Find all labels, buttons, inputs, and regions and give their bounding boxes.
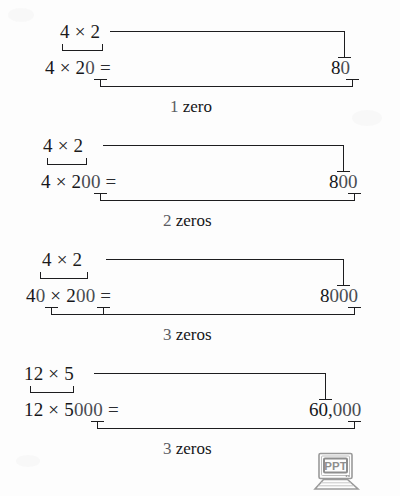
zeros-label-4: 3 zeros xyxy=(163,440,212,457)
zeros-word-4: zeros xyxy=(176,439,212,458)
fact-to-answer-drop-4 xyxy=(325,373,326,399)
basic-fact-3: 4 × 2 xyxy=(42,250,82,269)
problem-line-1: 4 × 20 = xyxy=(45,58,111,77)
answer-3: 8000 xyxy=(320,286,358,305)
answer-lead-4: 60, xyxy=(309,399,333,420)
fact-brace-right-tick-1 xyxy=(102,44,103,51)
ppt-watermark: PPT xyxy=(312,452,362,492)
worksheet-page: 4 × 2 4 × 20 = 80 1 zero 4 × 2 4 × 200 = xyxy=(0,0,400,496)
fact-brace-rule-4 xyxy=(30,392,74,393)
zeros-bracket-rule-2 xyxy=(100,200,354,201)
zeros-label-3: 3 zeros xyxy=(163,326,212,343)
zeros-bracket-right-tick-4 xyxy=(354,421,355,429)
zeros-bracket-tick-c-3 xyxy=(354,307,355,315)
answer-1: 80 xyxy=(331,58,350,77)
zeros-count-1: 1 xyxy=(170,97,179,116)
zeros-bracket-left-tick-4 xyxy=(97,421,98,429)
zeros-word-3: zeros xyxy=(176,325,212,344)
problem-lead-a-3: 4 xyxy=(26,285,36,306)
answer-lead-2: 8 xyxy=(329,171,339,192)
fact-brace-right-tick-3 xyxy=(87,272,88,279)
equals-glyph-4: = xyxy=(108,399,119,420)
fact-brace-right-tick-4 xyxy=(73,386,74,393)
zeros-bracket-tick-b-3 xyxy=(103,307,104,315)
zeros-label-2: 2 zeros xyxy=(163,212,212,229)
fact-to-answer-drop-3 xyxy=(343,259,344,285)
problem-lead-1: 4 × 2 xyxy=(45,57,85,78)
equals-glyph-3: = xyxy=(100,285,111,306)
zeros-word-2: zeros xyxy=(176,211,212,230)
fact-brace-rule-2 xyxy=(47,164,87,165)
equals-glyph-1: = xyxy=(100,57,111,78)
fact-to-answer-rule-4 xyxy=(94,373,325,374)
problem-line-2: 4 × 200 = xyxy=(41,172,117,191)
ppt-watermark-label: PPT xyxy=(324,460,346,472)
laptop-icon: PPT xyxy=(312,452,362,492)
problem-zeros-b-3: 00 xyxy=(76,285,95,306)
problem-times-3: × xyxy=(45,285,66,306)
zeros-bracket-cap-a-3 xyxy=(45,307,58,308)
answer-lead-3: 8 xyxy=(320,285,330,306)
zeros-bracket-right-cap-2 xyxy=(348,193,361,194)
zeros-bracket-left-cap-2 xyxy=(94,193,107,194)
zeros-count-4: 3 xyxy=(163,439,172,458)
example-block-2: 4 × 2 4 × 200 = 800 2 zeros xyxy=(0,120,400,240)
problem-zero-a-3: 0 xyxy=(36,285,46,306)
fact-brace-rule-3 xyxy=(40,278,88,279)
answer-zeros-3: 000 xyxy=(330,285,359,306)
problem-lead-2: 4 × 2 xyxy=(41,171,81,192)
problem-lead-4: 12 × 5 xyxy=(24,399,74,420)
fact-brace-left-tick-2 xyxy=(47,158,48,165)
answer-4: 60,000 xyxy=(309,400,361,419)
fact-to-answer-rule-3 xyxy=(106,259,343,260)
problem-line-3: 40 × 200 = xyxy=(26,286,111,305)
basic-fact-4: 12 × 5 xyxy=(24,364,74,383)
fact-to-answer-drop-1 xyxy=(344,31,345,57)
zeros-bracket-left-cap-1 xyxy=(94,79,107,80)
fact-brace-right-tick-2 xyxy=(86,158,87,165)
problem-zeros-1: 0 xyxy=(85,57,95,78)
answer-zeros-4: 000 xyxy=(333,399,362,420)
zeros-count-2: 2 xyxy=(163,211,172,230)
zeros-bracket-cap-c-3 xyxy=(348,307,361,308)
zeros-bracket-rule-1 xyxy=(100,86,352,87)
answer-lead-1: 8 xyxy=(331,57,341,78)
answer-2: 800 xyxy=(329,172,358,191)
problem-zeros-2: 00 xyxy=(81,171,100,192)
answer-zeros-1: 0 xyxy=(341,57,351,78)
equals-glyph-2: = xyxy=(106,171,117,192)
example-block-1: 4 × 2 4 × 20 = 80 1 zero xyxy=(0,0,400,120)
zeros-word-1: zero xyxy=(183,97,212,116)
zeros-bracket-left-tick-1 xyxy=(100,79,101,87)
zeros-bracket-right-tick-1 xyxy=(352,79,353,87)
zeros-bracket-cap-b-3 xyxy=(97,307,110,308)
zeros-bracket-right-cap-1 xyxy=(346,79,359,80)
problem-line-4: 12 × 5000 = xyxy=(24,400,119,419)
zeros-bracket-right-tick-2 xyxy=(354,193,355,201)
zeros-bracket-right-cap-4 xyxy=(348,421,361,422)
zeros-bracket-rule-3 xyxy=(51,314,354,315)
problem-lead-b-3: 2 xyxy=(66,285,76,306)
fact-brace-left-tick-4 xyxy=(30,386,31,393)
zeros-label-1: 1 zero xyxy=(170,98,212,115)
zeros-bracket-tick-a-3 xyxy=(51,307,52,315)
fact-brace-rule-1 xyxy=(62,50,103,51)
fact-brace-left-tick-3 xyxy=(40,272,41,279)
fact-to-answer-rule-1 xyxy=(110,31,344,32)
example-block-3: 4 × 2 40 × 200 = 8000 3 zeros xyxy=(0,240,400,360)
problem-zeros-4: 000 xyxy=(74,399,103,420)
fact-to-answer-rule-2 xyxy=(103,145,343,146)
zeros-count-3: 3 xyxy=(163,325,172,344)
answer-zeros-2: 00 xyxy=(339,171,358,192)
basic-fact-2: 4 × 2 xyxy=(43,136,83,155)
fact-brace-left-tick-1 xyxy=(62,44,63,51)
basic-fact-1: 4 × 2 xyxy=(60,22,100,41)
zeros-bracket-left-tick-2 xyxy=(100,193,101,201)
zeros-bracket-rule-4 xyxy=(97,428,354,429)
fact-to-answer-drop-2 xyxy=(343,145,344,171)
zeros-bracket-left-cap-4 xyxy=(91,421,104,422)
